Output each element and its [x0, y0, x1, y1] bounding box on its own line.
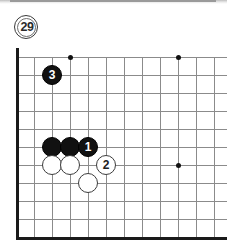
board-vertical-line [160, 57, 161, 237]
board-vertical-line [106, 57, 107, 237]
board-star-point [176, 55, 181, 60]
board-star-point [176, 163, 181, 168]
stone-move-number: 2 [97, 156, 115, 174]
stone-move-number: 3 [43, 66, 61, 84]
board-vertical-line [214, 57, 215, 237]
black-stone-d5[interactable] [60, 137, 80, 157]
black-stone-move-1[interactable]: 1 [78, 137, 98, 157]
board-vertical-line [178, 57, 179, 237]
black-stone-c5[interactable] [42, 137, 62, 157]
go-board[interactable]: 132 [0, 0, 227, 244]
board-vertical-line [34, 57, 35, 237]
white-stone-c6[interactable] [42, 155, 62, 175]
board-vertical-line [196, 57, 197, 237]
board-vertical-line [124, 57, 125, 237]
board-left-edge [16, 48, 19, 239]
white-stone-e7[interactable] [78, 173, 98, 193]
board-star-point [68, 55, 73, 60]
white-stone-d6[interactable] [60, 155, 80, 175]
board-bottom-edge [16, 237, 227, 240]
black-stone-move-3[interactable]: 3 [42, 65, 62, 85]
stone-move-number: 1 [79, 138, 97, 156]
board-vertical-line [142, 57, 143, 237]
go-diagram-screenshot: 29 132 [0, 0, 227, 244]
white-stone-move-2[interactable]: 2 [96, 155, 116, 175]
